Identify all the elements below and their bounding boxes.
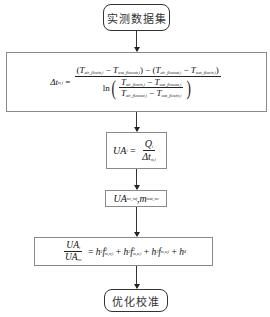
fit-formula-node: UAi UAno = h1 f3m,w,i + h2 f2m,w,i + h3 … xyxy=(34,237,213,266)
arrow-3 xyxy=(136,169,137,189)
sub: i xyxy=(152,144,153,149)
sub: wat_flowin,i xyxy=(196,70,216,75)
lmtd-formula-node: Δtm,i = (Tair_flowin,i − Twat_flowout,i)… xyxy=(6,52,267,112)
sub: air_flowin,i xyxy=(126,82,145,87)
sub: wat_flowout,i xyxy=(118,70,140,75)
sub: 4 xyxy=(184,249,186,254)
sub: m,w,i xyxy=(133,252,141,255)
reference-node: UAno_ref , mwat_no xyxy=(105,190,167,207)
sub: no_ref xyxy=(127,196,137,201)
q: Q xyxy=(145,138,152,149)
ua-equation: UAi = Qi Δtm,i xyxy=(113,138,160,162)
sub: m,w,i xyxy=(105,252,113,255)
arrow-2 xyxy=(136,112,137,131)
fit-equation: UAi UAno = h1 f3m,w,i + h2 f2m,w,i + h3 … xyxy=(61,240,186,263)
ua-i: UA xyxy=(66,240,79,250)
sub: m,i xyxy=(151,157,156,162)
arrow-1 xyxy=(136,31,137,51)
end-node: 优化校准 xyxy=(104,289,168,312)
ua-no: UA xyxy=(65,252,78,262)
sub: wat_no xyxy=(147,196,159,201)
ua-ref: UA xyxy=(113,193,126,204)
start-node: 实测数据集 xyxy=(103,4,170,31)
delta-t: Δt xyxy=(142,151,151,162)
sub: no xyxy=(78,257,82,262)
sub: air_flowout,i xyxy=(126,93,147,98)
start-label: 实测数据集 xyxy=(107,10,167,26)
delta-t: Δt xyxy=(50,77,58,87)
m-wat: m xyxy=(140,193,147,204)
ua: UA xyxy=(113,145,126,156)
ln: ln xyxy=(103,83,110,93)
sub: m,w,i xyxy=(161,249,169,254)
sub: i xyxy=(79,245,80,250)
sub: air_flowout,i xyxy=(160,70,181,75)
ua-formula-node: UAi = Qi Δtm,i xyxy=(106,132,167,169)
sub: air_flowin,i xyxy=(85,70,104,75)
sub: wat_flowout,i xyxy=(159,82,181,87)
end-label: 优化校准 xyxy=(112,293,160,309)
sub: wat_flowin,i xyxy=(161,93,181,98)
arrow-5 xyxy=(136,266,137,288)
reference-values: UAno_ref , mwat_no xyxy=(113,193,158,204)
lmtd-equation: Δtm,i = (Tair_flowin,i − Twat_flowout,i)… xyxy=(50,65,223,99)
arrow-4 xyxy=(136,207,137,236)
lmtd-fraction: (Tair_flowin,i − Twat_flowout,i) − (Tair… xyxy=(75,65,221,99)
